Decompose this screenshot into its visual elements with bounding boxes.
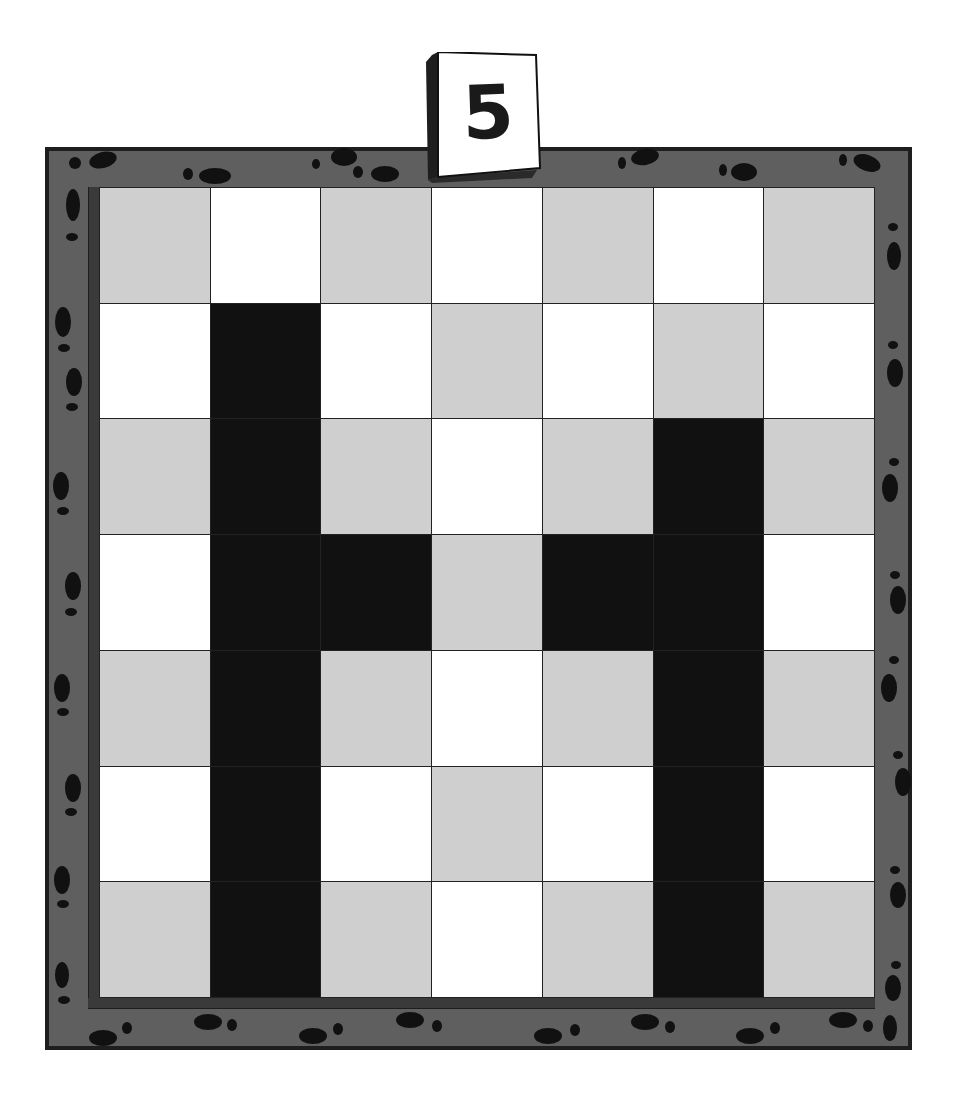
grid-cell[interactable] <box>543 419 653 534</box>
grid-cell[interactable] <box>321 535 431 650</box>
grid-cell[interactable] <box>654 419 764 534</box>
grid-cell[interactable] <box>100 304 210 419</box>
grid-cell[interactable] <box>321 651 431 766</box>
grid-cell[interactable] <box>211 651 321 766</box>
grid-cell[interactable] <box>432 882 542 997</box>
grid-cell[interactable] <box>432 767 542 882</box>
grid-cell[interactable] <box>211 535 321 650</box>
grid-cell[interactable] <box>211 304 321 419</box>
puzzle-grid <box>99 187 875 998</box>
grid-cell[interactable] <box>432 188 542 303</box>
grid-cell[interactable] <box>543 304 653 419</box>
grid-cell[interactable] <box>432 651 542 766</box>
grid-cell[interactable] <box>654 188 764 303</box>
grid-cell[interactable] <box>543 882 653 997</box>
grid-cell[interactable] <box>654 651 764 766</box>
grid-cell[interactable] <box>764 188 874 303</box>
grid-cell[interactable] <box>321 419 431 534</box>
grid-cell[interactable] <box>321 882 431 997</box>
grid-cell[interactable] <box>654 767 764 882</box>
grid-cell[interactable] <box>764 651 874 766</box>
grid-cell[interactable] <box>100 535 210 650</box>
grid-cell[interactable] <box>543 767 653 882</box>
grid-cell[interactable] <box>100 188 210 303</box>
grid-ledge-bottom <box>88 998 875 1009</box>
grid-cell[interactable] <box>543 535 653 650</box>
grid-cell[interactable] <box>764 535 874 650</box>
grid-cell[interactable] <box>764 419 874 534</box>
grid-cell[interactable] <box>211 882 321 997</box>
grid-cell[interactable] <box>432 419 542 534</box>
grid-cell[interactable] <box>321 188 431 303</box>
grid-cell[interactable] <box>432 535 542 650</box>
grid-cell[interactable] <box>764 882 874 997</box>
grid-cell[interactable] <box>100 767 210 882</box>
grid-cell[interactable] <box>654 304 764 419</box>
grid-cell[interactable] <box>654 882 764 997</box>
grid-cell[interactable] <box>211 419 321 534</box>
grid-cell[interactable] <box>100 651 210 766</box>
grid-cell[interactable] <box>321 304 431 419</box>
grid-cell[interactable] <box>543 188 653 303</box>
tile-number: 5 <box>438 60 537 163</box>
grid-cell[interactable] <box>543 651 653 766</box>
grid-cell[interactable] <box>321 767 431 882</box>
grid-cell[interactable] <box>211 767 321 882</box>
grid-cell[interactable] <box>100 882 210 997</box>
grid-cell[interactable] <box>100 419 210 534</box>
grid-cell[interactable] <box>764 304 874 419</box>
grid-cell[interactable] <box>211 188 321 303</box>
grid-cell[interactable] <box>764 767 874 882</box>
grid-cell[interactable] <box>432 304 542 419</box>
grid-cell[interactable] <box>654 535 764 650</box>
